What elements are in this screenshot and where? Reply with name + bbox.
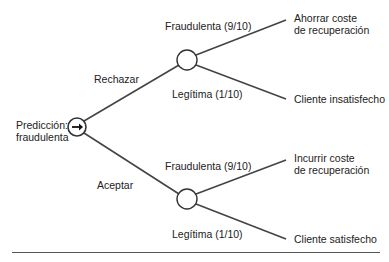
event-aceptar-fraudulenta: Fraudulenta (9/10) <box>165 160 251 172</box>
event-rechazar-legitima: Legítima (1/10) <box>172 88 243 100</box>
result-cliente-insatisfecho: Cliente insatisfecho <box>294 93 385 105</box>
chance-node-rechazar <box>177 50 197 70</box>
event-aceptar-legitima: Legítima (1/10) <box>172 228 243 240</box>
chance-node-aceptar <box>177 189 197 209</box>
decision-aceptar: Aceptar <box>97 179 133 191</box>
result-ahorrar-line1: Ahorrar coste <box>294 12 357 24</box>
result-incurrir-line1: Incurrir coste <box>294 152 355 164</box>
root-label-line2: fraudulenta <box>16 131 69 143</box>
result-cliente-satisfecho: Cliente satisfecho <box>294 233 377 245</box>
result-ahorrar-line2: de recuperación <box>294 24 369 36</box>
result-incurrir-line2: de recuperación <box>294 164 369 176</box>
event-rechazar-fraudulenta: Fraudulenta (9/10) <box>165 20 251 32</box>
bottom-rule <box>12 252 380 253</box>
root-label-line1: Predicción: <box>16 119 68 131</box>
decision-rechazar: Rechazar <box>94 73 139 85</box>
